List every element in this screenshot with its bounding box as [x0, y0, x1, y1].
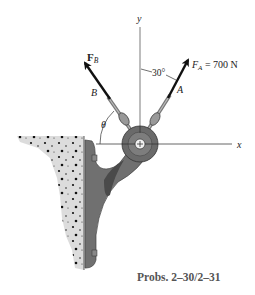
bolt-lower [92, 250, 97, 256]
y-axis-label: y [136, 13, 142, 24]
axes: y x [96, 13, 242, 150]
bolt-upper [92, 155, 97, 161]
angle-30-dimension: 30° [141, 68, 176, 80]
x-axis-label: x [236, 139, 242, 150]
force-b-label: FB [87, 51, 99, 65]
cable-b-label: B [91, 87, 97, 98]
concrete-wall [17, 136, 84, 270]
ring-hub [122, 126, 158, 162]
force-b-arrow [85, 63, 110, 99]
angle-theta-label: θ [101, 119, 106, 130]
cable-a-label: A [176, 84, 184, 95]
angle-30-label: 30° [152, 68, 166, 78]
statics-diagram: y x [0, 0, 255, 295]
figure-caption: Probs. 2–30/2–31 [137, 271, 221, 283]
force-a-label: FA = 700 N [191, 59, 238, 72]
angle-theta-dimension: θ [100, 111, 114, 144]
